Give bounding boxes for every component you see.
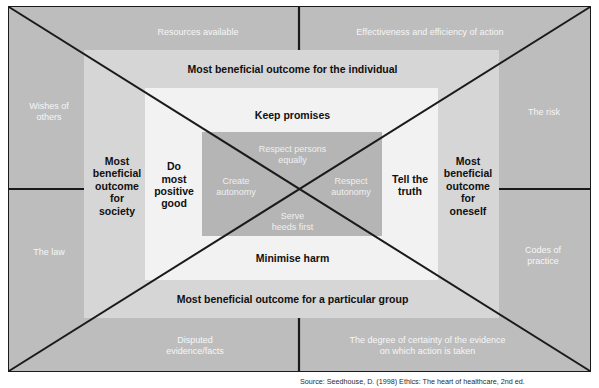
- label-tell-the-truth: Tell the truth: [382, 160, 438, 210]
- label-outcome-individual: Most beneficial outcome for the individu…: [120, 58, 465, 80]
- label-degree-of-certainty: The degree of certainty of the evidence …: [300, 330, 555, 362]
- label-disputed-evidence: Disputed evidence/facts: [120, 330, 270, 362]
- label-respect-autonomy: Respect autonomy: [318, 172, 384, 202]
- label-resources-available: Resources available: [108, 20, 288, 44]
- label-outcome-society: Most beneficial outcome for society: [88, 145, 146, 227]
- label-keep-promises: Keep promises: [175, 105, 410, 125]
- label-outcome-particular-group: Most beneficial outcome for a particular…: [120, 288, 465, 310]
- label-respect-persons-equally: Respect persons equally: [215, 141, 370, 169]
- label-minimise-harm: Minimise harm: [175, 248, 410, 268]
- label-the-law: The law: [14, 240, 84, 264]
- diagram-canvas: Resources available Effectiveness and ef…: [0, 0, 599, 388]
- label-serve-needs-first: Serve heeds first: [215, 208, 370, 236]
- source-caption: Source: Seedhouse, D. (1998) Ethics: The…: [300, 377, 599, 386]
- label-wishes-of-others: Wishes of others: [14, 96, 84, 128]
- label-outcome-oneself: Most beneficial outcome for oneself: [438, 145, 498, 227]
- label-codes-of-practice: Codes of practice: [506, 240, 580, 272]
- label-the-risk: The risk: [508, 96, 580, 128]
- label-effectiveness-efficiency: Effectiveness and efficiency of action: [310, 20, 550, 44]
- label-create-autonomy: Create autonomy: [203, 172, 269, 202]
- label-do-most-positive-good: Do most positive good: [146, 152, 202, 218]
